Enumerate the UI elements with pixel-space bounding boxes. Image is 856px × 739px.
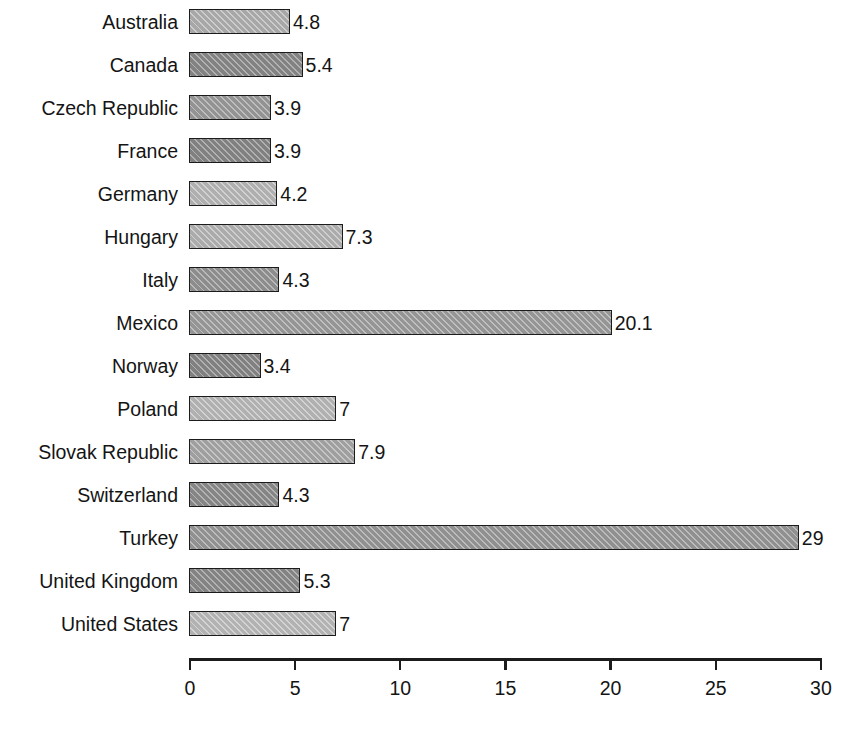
bar: [189, 439, 355, 464]
bar-value-label: 4.3: [282, 483, 309, 507]
bar: [189, 525, 799, 550]
bar-row: Hungary7.3: [0, 215, 856, 258]
bar-value-label: 5.4: [306, 53, 333, 77]
bar-and-value: 5.4: [189, 52, 333, 77]
x-axis-tick: [715, 658, 717, 670]
x-axis-tick: [399, 658, 401, 670]
x-axis-tick: [820, 658, 822, 670]
category-label: Hungary: [0, 225, 178, 249]
bar-and-value: 3.9: [189, 95, 301, 120]
x-axis-tick-label: 0: [185, 676, 196, 700]
category-label: Italy: [0, 268, 178, 292]
x-axis-tick-label: 20: [600, 676, 622, 700]
bar-row: Australia4.8: [0, 0, 856, 43]
x-axis-tick-label: 5: [290, 676, 301, 700]
bar-hatch-pattern: [190, 53, 302, 76]
bar-and-value: 3.9: [189, 138, 301, 163]
category-label: Canada: [0, 53, 178, 77]
bar-hatch-pattern: [190, 526, 798, 549]
bar-row: United Kingdom5.3: [0, 559, 856, 602]
bar-value-label: 7: [339, 612, 350, 636]
bar-and-value: 4.8: [189, 9, 320, 34]
bar-row: Norway3.4: [0, 344, 856, 387]
bar-value-label: 7.3: [346, 225, 373, 249]
bar-row: Turkey29: [0, 516, 856, 559]
category-label: Australia: [0, 10, 178, 34]
bar-value-label: 4.2: [280, 182, 307, 206]
bar-row: Czech Republic3.9: [0, 86, 856, 129]
bar-hatch-pattern: [190, 569, 299, 592]
bar: [189, 353, 261, 378]
category-label: France: [0, 139, 178, 163]
bar-row: France3.9: [0, 129, 856, 172]
bar: [189, 568, 300, 593]
bar-and-value: 20.1: [189, 310, 653, 335]
bar-hatch-pattern: [190, 354, 260, 377]
category-label: United States: [0, 612, 178, 636]
bar-value-label: 7.9: [358, 440, 385, 464]
x-axis-tick: [609, 658, 611, 670]
bar-and-value: 7: [189, 611, 350, 636]
x-axis-tick: [294, 658, 296, 670]
category-label: Slovak Republic: [0, 440, 178, 464]
bar-value-label: 20.1: [615, 311, 653, 335]
bar-and-value: 4.3: [189, 482, 310, 507]
x-axis-tick-label: 15: [495, 676, 517, 700]
bar: [189, 482, 279, 507]
bar-value-label: 3.4: [264, 354, 291, 378]
horizontal-bar-chart: Australia4.8Canada5.4Czech Republic3.9Fr…: [0, 0, 856, 739]
bar: [189, 138, 271, 163]
bar-and-value: 7.9: [189, 439, 385, 464]
bar-row: Italy4.3: [0, 258, 856, 301]
bar: [189, 9, 290, 34]
bar-value-label: 29: [802, 526, 824, 550]
bar: [189, 181, 277, 206]
bar-hatch-pattern: [190, 483, 278, 506]
bar-and-value: 7: [189, 396, 350, 421]
category-label: Mexico: [0, 311, 178, 335]
bar-and-value: 4.3: [189, 267, 310, 292]
bar-value-label: 5.3: [303, 569, 330, 593]
bar-and-value: 7.3: [189, 224, 373, 249]
bar-and-value: 29: [189, 525, 824, 550]
bar-row: Switzerland4.3: [0, 473, 856, 516]
x-axis-tick: [504, 658, 506, 670]
bar: [189, 396, 336, 421]
bar-hatch-pattern: [190, 139, 270, 162]
bar-row: Slovak Republic7.9: [0, 430, 856, 473]
bar-hatch-pattern: [190, 612, 335, 635]
category-label: Czech Republic: [0, 96, 178, 120]
category-label: United Kingdom: [0, 569, 178, 593]
bar: [189, 52, 303, 77]
bar-hatch-pattern: [190, 397, 335, 420]
category-label: Germany: [0, 182, 178, 206]
bar-value-label: 3.9: [274, 139, 301, 163]
bar-value-label: 4.3: [282, 268, 309, 292]
x-axis-tick-label: 30: [810, 676, 832, 700]
category-label: Poland: [0, 397, 178, 421]
bar-and-value: 5.3: [189, 568, 331, 593]
bar-row: Poland7: [0, 387, 856, 430]
x-axis-tick-label: 10: [389, 676, 411, 700]
bar-row: Canada5.4: [0, 43, 856, 86]
bar: [189, 95, 271, 120]
x-axis: 051015202530: [0, 652, 856, 732]
bar-hatch-pattern: [190, 268, 278, 291]
bar-hatch-pattern: [190, 311, 611, 334]
bar-value-label: 3.9: [274, 96, 301, 120]
bar-hatch-pattern: [190, 440, 354, 463]
bar: [189, 310, 612, 335]
bar: [189, 224, 343, 249]
x-axis-tick-label: 25: [705, 676, 727, 700]
bar: [189, 267, 279, 292]
bar-and-value: 3.4: [189, 353, 291, 378]
bar-hatch-pattern: [190, 10, 289, 33]
category-label: Switzerland: [0, 483, 178, 507]
bar-row: Mexico20.1: [0, 301, 856, 344]
bar-hatch-pattern: [190, 96, 270, 119]
x-axis-tick: [189, 658, 191, 670]
bar-hatch-pattern: [190, 225, 342, 248]
bar-hatch-pattern: [190, 182, 276, 205]
bar-row: United States7: [0, 602, 856, 645]
bar-value-label: 4.8: [293, 10, 320, 34]
